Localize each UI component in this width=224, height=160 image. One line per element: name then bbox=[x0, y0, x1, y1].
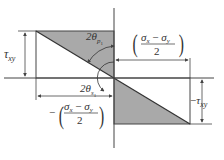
mohr-angle-diagram: τxy −τxy 2θp1 2θs1 ( σx − σy 2 ) − ( σx … bbox=[0, 0, 224, 160]
tau-xy-right-label: −τxy bbox=[190, 94, 208, 109]
svg-text:σx − σy: σx − σy bbox=[141, 31, 171, 45]
svg-text:2: 2 bbox=[77, 114, 83, 126]
svg-text:−: − bbox=[49, 106, 55, 118]
svg-text:σx − σy: σx − σy bbox=[64, 100, 94, 114]
pos-half-diff-label: ( σx − σy 2 ) bbox=[133, 29, 184, 58]
svg-text:(: ( bbox=[133, 29, 138, 58]
tau-xy-left-label: τxy bbox=[4, 47, 16, 63]
svg-text:): ) bbox=[99, 101, 104, 130]
neg-half-diff-label: − ( σx − σy 2 ) bbox=[49, 100, 104, 130]
svg-text:): ) bbox=[179, 29, 184, 58]
svg-text:2: 2 bbox=[154, 45, 160, 57]
